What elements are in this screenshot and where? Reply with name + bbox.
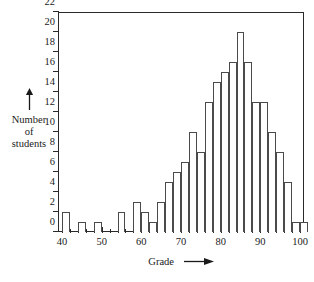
histogram-bar bbox=[197, 152, 205, 232]
x-axis-tick-label: 100 bbox=[292, 237, 308, 248]
histogram-bar bbox=[276, 152, 284, 232]
y-axis-tick-label: 0 bbox=[50, 217, 55, 228]
plot-area: 0246810121416182022 405060708090100 bbox=[58, 12, 304, 232]
x-axis-tick-label: 80 bbox=[215, 237, 226, 248]
histogram-bar bbox=[149, 222, 157, 232]
histogram-bar bbox=[268, 132, 276, 232]
histogram-bar bbox=[173, 172, 181, 232]
histogram-bar bbox=[205, 102, 213, 232]
histogram-bar bbox=[181, 162, 189, 232]
histogram-bar bbox=[260, 102, 268, 232]
y-axis-tick-label: 6 bbox=[50, 157, 55, 168]
x-axis-tick-label: 50 bbox=[96, 237, 107, 248]
histogram-bar bbox=[300, 222, 308, 232]
histogram-bar bbox=[244, 62, 252, 232]
histogram-bar bbox=[284, 182, 292, 232]
histogram-bar bbox=[252, 102, 260, 232]
y-axis-tick-label: 4 bbox=[50, 177, 55, 188]
histogram-bar bbox=[141, 212, 149, 232]
x-axis-tick-label: 40 bbox=[57, 237, 68, 248]
right-arrow-icon bbox=[184, 257, 214, 266]
up-arrow-icon bbox=[25, 88, 34, 110]
y-axis-tick-label: 8 bbox=[50, 137, 55, 148]
y-axis-tick-label: 16 bbox=[45, 57, 56, 68]
x-axis-tick-label: 90 bbox=[255, 237, 266, 248]
histogram-bar bbox=[292, 222, 300, 232]
y-axis-tick-label: 2 bbox=[50, 197, 55, 208]
histogram-bar bbox=[229, 62, 237, 232]
y-axis-tick-label: 10 bbox=[45, 117, 56, 128]
y-axis-tick-label: 12 bbox=[45, 97, 56, 108]
histogram-bar bbox=[133, 202, 141, 232]
histogram-bar bbox=[118, 212, 126, 232]
histogram-bar bbox=[165, 182, 173, 232]
histogram-bars bbox=[58, 12, 304, 232]
histogram-bar bbox=[237, 32, 245, 232]
histogram-bar bbox=[78, 222, 86, 232]
x-axis-label-text: Grade bbox=[148, 256, 174, 267]
histogram-bar bbox=[221, 72, 229, 232]
y-axis-tick-label: 20 bbox=[45, 17, 56, 28]
histogram-figure: Number of students 0246810121416182022 4… bbox=[0, 0, 314, 282]
y-axis-tick-label: 14 bbox=[45, 77, 56, 88]
histogram-bar bbox=[157, 202, 165, 232]
x-axis-label: Grade bbox=[58, 255, 304, 267]
histogram-bar bbox=[213, 82, 221, 232]
y-axis-tick-label: 22 bbox=[45, 0, 56, 7]
histogram-bar bbox=[94, 222, 102, 232]
y-axis-tick-label: 18 bbox=[45, 37, 56, 48]
x-axis-tick-label: 70 bbox=[176, 237, 187, 248]
histogram-bar bbox=[62, 212, 70, 232]
histogram-bar bbox=[189, 132, 197, 232]
x-axis-tick-label: 60 bbox=[136, 237, 147, 248]
